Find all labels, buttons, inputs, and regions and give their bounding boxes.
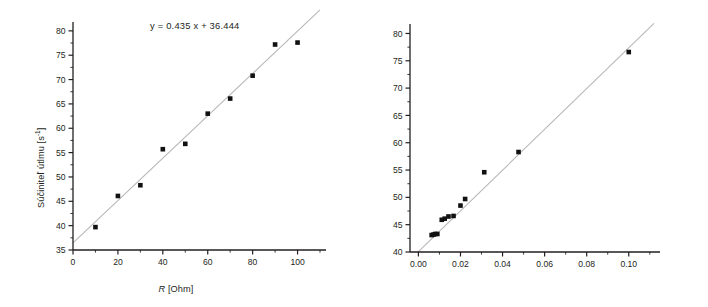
data-point	[273, 42, 278, 47]
data-point	[161, 147, 166, 152]
x-tick-label: 0.04	[494, 259, 511, 269]
data-point	[446, 214, 451, 219]
chart-panel-right: 4045505560657075800.000.020.040.060.080.…	[354, 0, 708, 307]
y-tick-label: 50	[56, 172, 66, 182]
x-tick-label: 0.06	[536, 259, 553, 269]
y-tick-label: 75	[56, 50, 66, 60]
y-axis-title-bracket-left: ]	[36, 128, 46, 131]
data-point	[482, 170, 487, 175]
x-tick-label: 0	[71, 257, 76, 267]
chart-panel-left: 35404550556065707580020406080100 y = 0.4…	[0, 0, 354, 307]
y-tick-label: 70	[393, 83, 403, 93]
data-point	[626, 50, 631, 55]
y-tick-label: 50	[393, 192, 403, 202]
x-tick-label: 0.10	[620, 259, 637, 269]
y-tick-label: 80	[393, 29, 403, 39]
x-axis-symbol-left: R	[159, 284, 166, 294]
regression-line	[417, 23, 654, 252]
data-points-group	[93, 40, 300, 229]
plot-canvas-right: 4045505560657075800.000.020.040.060.080.…	[354, 0, 708, 307]
data-point	[435, 232, 440, 237]
data-point	[138, 183, 143, 188]
x-tick-label: 0.00	[410, 259, 427, 269]
x-tick-label: 0.08	[578, 259, 595, 269]
data-point	[93, 225, 98, 230]
fit-line-group	[73, 10, 320, 243]
two-panel-scatter-figure: 35404550556065707580020406080100 y = 0.4…	[0, 0, 708, 307]
x-tick-label: 20	[113, 257, 123, 267]
data-point	[116, 194, 121, 199]
y-tick-label: 60	[393, 138, 403, 148]
x-tick-label: 40	[158, 257, 168, 267]
tick-group	[69, 31, 321, 255]
y-tick-label: 60	[56, 123, 66, 133]
x-tick-label: 80	[248, 257, 258, 267]
axes-group	[73, 22, 326, 250]
data-point	[295, 40, 300, 45]
data-point	[183, 142, 188, 147]
x-axis-unit-left: [Ohm]	[165, 284, 193, 294]
fit-line-group	[417, 23, 654, 252]
y-tick-label: 45	[393, 220, 403, 230]
regression-line	[73, 10, 320, 243]
tick-group	[406, 33, 650, 256]
y-axis-title-exponent-left: -1	[34, 130, 41, 136]
y-tick-label: 65	[56, 99, 66, 109]
y-tick-label: 35	[56, 245, 66, 255]
y-tick-label: 55	[393, 165, 403, 175]
data-point	[205, 111, 210, 116]
y-axis-title-left: Súčiniteľ útlmu [s-1]	[34, 128, 46, 208]
y-axis-title-text-left: Súčiniteľ útlmu [s	[36, 136, 46, 208]
data-point	[516, 150, 521, 155]
y-tick-label: 40	[56, 221, 66, 231]
fit-equation-left: y = 0.435 x + 36.444	[150, 20, 239, 31]
y-tick-label: 70	[56, 75, 66, 85]
y-tick-label: 45	[56, 196, 66, 206]
plot-canvas-left: 35404550556065707580020406080100	[0, 0, 354, 307]
data-point	[451, 214, 456, 219]
y-tick-label: 80	[56, 26, 66, 36]
data-point	[250, 73, 255, 78]
tick-label-group: 35404550556065707580020406080100	[56, 26, 305, 267]
x-tick-label: 0.02	[452, 259, 469, 269]
data-point	[228, 96, 233, 101]
data-point	[463, 197, 468, 202]
y-tick-label: 40	[393, 247, 403, 257]
x-tick-label: 100	[290, 257, 305, 267]
y-tick-label: 75	[393, 56, 403, 66]
y-tick-label: 55	[56, 148, 66, 158]
y-tick-label: 65	[393, 111, 403, 121]
data-point	[458, 203, 463, 208]
x-tick-label: 60	[203, 257, 213, 267]
x-axis-title-left: R [Ohm]	[159, 284, 194, 294]
